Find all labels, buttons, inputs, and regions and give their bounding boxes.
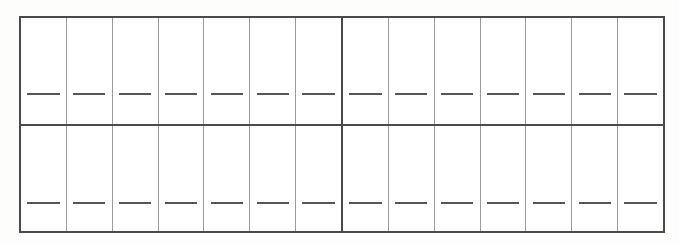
answer-dash — [533, 202, 565, 204]
grid-cell[interactable] — [434, 126, 480, 232]
grid-block-top-left — [21, 18, 341, 124]
answer-dash — [579, 93, 611, 95]
grid-cell[interactable] — [480, 18, 526, 124]
answer-dash — [73, 202, 105, 204]
grid-block-bottom-left — [21, 126, 341, 232]
grid-cell[interactable] — [571, 126, 617, 232]
answer-dash — [487, 202, 519, 204]
grid-cell[interactable] — [480, 126, 526, 232]
answer-dash — [395, 93, 427, 95]
grid-cell[interactable] — [21, 126, 66, 232]
grid-cell[interactable] — [249, 18, 295, 124]
answer-dash — [487, 93, 519, 95]
grid-band-top — [21, 18, 663, 126]
grid-cell[interactable] — [617, 18, 663, 124]
grid-cell[interactable] — [571, 18, 617, 124]
answer-dash — [302, 93, 334, 95]
grid-cell[interactable] — [112, 18, 158, 124]
answer-dash — [27, 202, 59, 204]
answer-dash — [624, 202, 656, 204]
answer-dash — [165, 202, 197, 204]
answer-dash — [119, 202, 151, 204]
answer-dash — [211, 202, 243, 204]
grid-cell[interactable] — [388, 18, 434, 124]
grid-cell[interactable] — [203, 18, 249, 124]
answer-dash — [395, 202, 427, 204]
grid-cell[interactable] — [343, 126, 388, 232]
grid-cell[interactable] — [249, 126, 295, 232]
grid-cell[interactable] — [617, 126, 663, 232]
grid-cell[interactable] — [66, 126, 112, 232]
answer-dash — [624, 93, 656, 95]
answer-dash — [211, 93, 243, 95]
answer-dash — [579, 202, 611, 204]
grid-cell[interactable] — [525, 18, 571, 124]
answer-dash — [73, 93, 105, 95]
grid-block-bottom-right — [341, 126, 663, 232]
answer-dash — [349, 93, 381, 95]
grid-cell[interactable] — [112, 126, 158, 232]
answer-dash — [349, 202, 381, 204]
answer-dash — [302, 202, 334, 204]
answer-dash — [441, 93, 473, 95]
answer-dash — [441, 202, 473, 204]
grid-band-bottom — [21, 126, 663, 232]
grid-cell[interactable] — [388, 126, 434, 232]
grid-block-top-right — [341, 18, 663, 124]
grid-cell[interactable] — [295, 126, 341, 232]
grid-cell[interactable] — [158, 126, 204, 232]
worksheet-grid — [19, 16, 665, 233]
answer-dash — [257, 93, 289, 95]
grid-cell[interactable] — [158, 18, 204, 124]
worksheet-canvas — [0, 0, 679, 246]
answer-dash — [119, 93, 151, 95]
answer-dash — [27, 93, 59, 95]
grid-cell[interactable] — [525, 126, 571, 232]
grid-cell[interactable] — [21, 18, 66, 124]
grid-cell[interactable] — [203, 126, 249, 232]
grid-cell[interactable] — [434, 18, 480, 124]
grid-cell[interactable] — [295, 18, 341, 124]
answer-dash — [257, 202, 289, 204]
answer-dash — [533, 93, 565, 95]
grid-cell[interactable] — [343, 18, 388, 124]
answer-dash — [165, 93, 197, 95]
grid-cell[interactable] — [66, 18, 112, 124]
